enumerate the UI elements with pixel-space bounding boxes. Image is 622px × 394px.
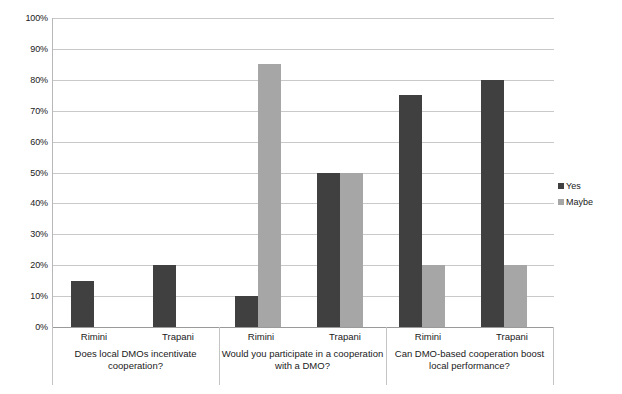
category-label-g2-rimini: Rimini bbox=[219, 331, 303, 342]
gridline-60 bbox=[53, 142, 554, 143]
y-tick-label: 100% bbox=[4, 14, 48, 23]
category-label-g3-trapani: Trapani bbox=[470, 331, 554, 342]
y-tick-label: 70% bbox=[4, 107, 48, 116]
gridline-70 bbox=[53, 111, 554, 112]
y-tick-label: 40% bbox=[4, 199, 48, 208]
y-tick-label: 10% bbox=[4, 292, 48, 301]
y-tick-label: 80% bbox=[4, 76, 48, 85]
legend-item-maybe: Maybe bbox=[558, 194, 620, 210]
gridline-0-baseline bbox=[53, 327, 554, 328]
y-tick-label: 30% bbox=[4, 230, 48, 239]
bar-g2-rimini-maybe bbox=[258, 64, 281, 327]
legend-swatch-maybe-icon bbox=[558, 199, 564, 205]
bar-g2-rimini-yes bbox=[235, 296, 258, 327]
legend: Yes Maybe bbox=[558, 178, 620, 210]
category-label-g1-rimini: Rimini bbox=[52, 331, 136, 342]
y-tick-label: 50% bbox=[4, 169, 48, 178]
gridline-30 bbox=[53, 234, 554, 235]
bar-g1-trapani-yes bbox=[153, 265, 176, 327]
group-label-1: Does local DMOs incentivate cooperation? bbox=[53, 348, 218, 372]
y-axis: 100% 90% 80% 70% 60% 50% 40% 30% 20% 10%… bbox=[0, 18, 48, 327]
y-tick-label: 60% bbox=[4, 138, 48, 147]
bar-g1-rimini-yes bbox=[71, 281, 94, 327]
category-label-g2-trapani: Trapani bbox=[303, 331, 387, 342]
gridline-90 bbox=[53, 49, 554, 50]
bar-g3-trapani-maybe bbox=[504, 265, 527, 327]
bar-chart: 100% 90% 80% 70% 60% 50% 40% 30% 20% 10%… bbox=[0, 0, 622, 394]
y-tick-label: 0% bbox=[4, 323, 48, 332]
bar-g2-trapani-maybe bbox=[340, 173, 363, 328]
legend-label-maybe: Maybe bbox=[566, 198, 593, 207]
y-tick-label: 20% bbox=[4, 261, 48, 270]
gridline-100 bbox=[53, 18, 554, 19]
legend-swatch-yes-icon bbox=[558, 183, 564, 189]
group-label-2: Would you participate in a cooperation w… bbox=[220, 348, 385, 372]
bar-g2-trapani-yes bbox=[317, 173, 340, 328]
gridline-50 bbox=[53, 173, 554, 174]
legend-item-yes: Yes bbox=[558, 178, 620, 194]
plot-area bbox=[52, 18, 553, 327]
gridline-20 bbox=[53, 265, 554, 266]
group-label-3: Can DMO-based cooperation boost local pe… bbox=[387, 348, 552, 372]
gridline-80 bbox=[53, 80, 554, 81]
bar-g3-trapani-yes bbox=[481, 80, 504, 327]
category-label-g3-rimini: Rimini bbox=[386, 331, 470, 342]
gridline-40 bbox=[53, 203, 554, 204]
bar-g3-rimini-maybe bbox=[422, 265, 445, 327]
legend-label-yes: Yes bbox=[566, 182, 581, 191]
bar-g3-rimini-yes bbox=[399, 95, 422, 327]
gridline-10 bbox=[53, 296, 554, 297]
category-label-g1-trapani: Trapani bbox=[136, 331, 220, 342]
y-tick-label: 90% bbox=[4, 45, 48, 54]
